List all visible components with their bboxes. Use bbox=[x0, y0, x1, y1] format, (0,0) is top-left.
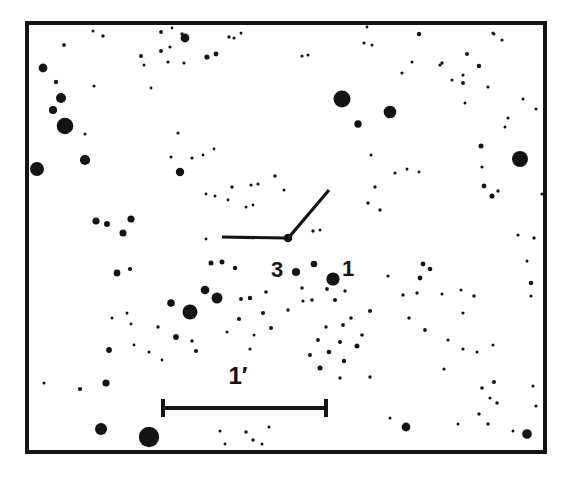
star-point bbox=[159, 30, 163, 34]
star-point bbox=[214, 195, 217, 198]
star-point bbox=[190, 339, 193, 342]
star-point bbox=[325, 287, 329, 291]
star-point bbox=[522, 98, 525, 101]
star-point bbox=[378, 208, 381, 211]
star-point bbox=[461, 347, 464, 350]
star-point bbox=[102, 379, 109, 386]
star-point bbox=[368, 375, 371, 378]
star-point bbox=[300, 54, 303, 57]
star-point bbox=[111, 317, 114, 320]
star-point bbox=[292, 268, 300, 276]
star-point bbox=[441, 293, 444, 296]
star-point bbox=[147, 350, 150, 353]
star-point bbox=[227, 35, 230, 38]
star-point bbox=[461, 311, 464, 314]
star-point bbox=[101, 34, 104, 37]
star-point bbox=[214, 52, 219, 57]
star-point bbox=[205, 193, 208, 196]
star-point bbox=[446, 338, 449, 341]
star-point bbox=[245, 206, 248, 209]
star-point bbox=[183, 305, 198, 320]
star-point bbox=[324, 325, 327, 328]
finding-chart-canvas: 311′ bbox=[0, 0, 569, 483]
star-point bbox=[220, 260, 225, 265]
star-point bbox=[366, 26, 369, 29]
star-point bbox=[400, 71, 403, 74]
star-point bbox=[204, 54, 209, 59]
star-point bbox=[227, 199, 230, 202]
star-point bbox=[512, 151, 528, 167]
star-point bbox=[535, 108, 538, 111]
star-point bbox=[310, 298, 314, 302]
star-point bbox=[421, 262, 426, 267]
star-point bbox=[368, 309, 372, 313]
star-point bbox=[540, 192, 543, 195]
star-point bbox=[504, 126, 507, 129]
star-point bbox=[512, 430, 515, 433]
star-point bbox=[338, 376, 341, 379]
star-point bbox=[190, 156, 193, 159]
comparison-star-label-3: 3 bbox=[271, 257, 283, 282]
star-point bbox=[529, 281, 534, 286]
star-point bbox=[56, 93, 66, 103]
star-point bbox=[477, 412, 480, 415]
star-point bbox=[249, 183, 252, 186]
star-point bbox=[423, 328, 427, 332]
star-point bbox=[308, 353, 312, 357]
horizontal-tick bbox=[222, 237, 286, 238]
star-point bbox=[486, 422, 489, 425]
star-point bbox=[334, 91, 351, 108]
star-point bbox=[43, 382, 46, 385]
star-point bbox=[167, 299, 175, 307]
star-point bbox=[500, 38, 503, 41]
star-point bbox=[411, 61, 414, 64]
star-point bbox=[237, 317, 241, 321]
star-point bbox=[213, 148, 216, 151]
star-point bbox=[418, 171, 421, 174]
star-point bbox=[319, 229, 322, 232]
star-point bbox=[170, 156, 173, 159]
comparison-star-label-1: 1 bbox=[342, 256, 354, 281]
star-point bbox=[230, 185, 233, 188]
star-point bbox=[139, 54, 143, 58]
star-point bbox=[205, 238, 208, 241]
star-point bbox=[92, 84, 95, 87]
star-point bbox=[370, 154, 373, 157]
star-point bbox=[240, 32, 243, 35]
star-point bbox=[301, 299, 304, 302]
star-point bbox=[495, 401, 499, 405]
star-point bbox=[492, 380, 496, 384]
star-point bbox=[311, 229, 314, 232]
star-point bbox=[92, 217, 99, 224]
star-point bbox=[39, 64, 48, 73]
star-point bbox=[139, 427, 159, 447]
star-point bbox=[248, 296, 252, 300]
star-point bbox=[150, 87, 153, 90]
star-point bbox=[341, 323, 345, 327]
star-point bbox=[133, 344, 136, 347]
star-point bbox=[475, 350, 478, 353]
star-point bbox=[464, 102, 467, 105]
star-point bbox=[261, 443, 264, 446]
star-point bbox=[233, 266, 237, 270]
star-point bbox=[407, 316, 410, 319]
star-point bbox=[316, 338, 320, 342]
star-point bbox=[268, 426, 271, 429]
star-point bbox=[248, 347, 251, 350]
star-point bbox=[120, 230, 127, 237]
star-point bbox=[219, 430, 222, 433]
star-point bbox=[127, 215, 134, 222]
star-point bbox=[360, 333, 364, 337]
star-point bbox=[457, 423, 460, 426]
star-point bbox=[311, 261, 318, 268]
star-point bbox=[406, 168, 409, 171]
star-point bbox=[104, 221, 110, 227]
star-point bbox=[182, 61, 185, 64]
star-point bbox=[532, 236, 535, 239]
star-point bbox=[173, 334, 179, 340]
star-point bbox=[30, 162, 44, 176]
star-point bbox=[333, 298, 337, 302]
star-point bbox=[256, 182, 259, 185]
star-point bbox=[78, 387, 82, 391]
star-point bbox=[176, 131, 179, 134]
